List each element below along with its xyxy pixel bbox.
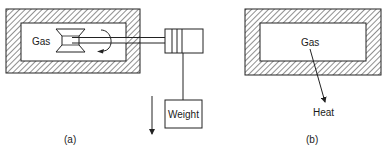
- pulley-drum: [165, 29, 203, 53]
- panel-a: Gas Weight: [6, 9, 203, 145]
- gas-label-b: Gas: [301, 37, 319, 48]
- caption-a: (a): [64, 134, 76, 145]
- caption-b: (b): [306, 134, 318, 145]
- panel-b: Gas Heat (b): [245, 9, 381, 145]
- weight-label: Weight: [168, 109, 199, 120]
- heat-label: Heat: [313, 107, 334, 118]
- thermodynamics-diagram: Gas Weight: [0, 0, 389, 153]
- gas-label-a: Gas: [32, 36, 50, 47]
